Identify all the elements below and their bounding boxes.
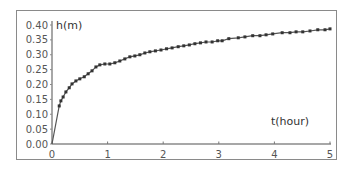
data-point [103,62,106,65]
y-tick-label: 0.15 [26,94,48,105]
x-axis-title: t(hour) [271,115,309,128]
data-point [59,99,62,102]
x-tick-label: 5 [327,149,333,160]
data-point [316,28,319,31]
y-tick-label: 0.00 [26,139,48,150]
data-point [265,33,268,36]
y-tick-label: 0.25 [26,64,48,75]
data-point [211,40,214,43]
data-point [258,34,261,37]
data-point [193,42,196,45]
y-axis-title: h(m) [56,19,82,32]
data-point [68,86,71,89]
data-point [308,29,311,32]
y-tick-label: 0.05 [26,124,48,135]
data-point [143,51,146,54]
data-point [188,43,191,46]
data-point [216,39,219,42]
data-point [87,72,90,75]
data-point [323,28,326,31]
data-point [113,61,116,64]
data-point [74,79,77,82]
y-tick-label: 0.35 [26,34,48,45]
x-tick-label: 1 [104,149,110,160]
x-axis: 012345 [49,142,333,161]
data-point [154,49,157,52]
data-point [227,37,230,40]
data-point [288,31,291,34]
data-point [123,57,126,60]
data-point [148,50,151,53]
y-tick-label: 0.30 [26,49,48,60]
data-point [281,31,284,34]
data-point [133,54,136,57]
data-point [165,47,168,50]
x-tick-label: 4 [271,149,277,160]
data-point [91,69,94,72]
data-point [243,35,246,38]
data-point [159,48,162,51]
data-point [221,39,224,42]
data-markers [58,27,332,107]
line-chart: 0.000.050.100.150.200.250.300.350.40 012… [0,0,350,173]
y-tick-label: 0.20 [26,79,48,90]
x-tick-label: 2 [160,149,166,160]
data-point [199,41,202,44]
data-point [237,36,240,39]
data-point [295,30,298,33]
data-point [171,46,174,49]
x-tick-label: 3 [216,149,222,160]
data-point [301,30,304,33]
data-point [128,55,131,58]
data-point [118,59,121,62]
y-tick-label: 0.10 [26,109,48,120]
data-point [205,40,208,43]
y-tick-label: 0.40 [26,20,48,31]
data-point [62,95,65,98]
data-point [271,32,274,35]
data-point [251,34,254,37]
data-point [94,65,97,68]
data-point [83,75,86,78]
data-point [138,53,141,56]
data-point [108,62,111,65]
x-tick-label: 0 [49,149,55,160]
y-axis: 0.000.050.100.150.200.250.300.350.40 [26,20,52,150]
data-point [98,63,101,66]
data-point [78,77,81,80]
data-point [177,45,180,48]
data-point [329,27,332,30]
data-point [58,104,61,107]
data-point [71,82,74,85]
data-point [182,44,185,47]
data-point [64,90,67,93]
